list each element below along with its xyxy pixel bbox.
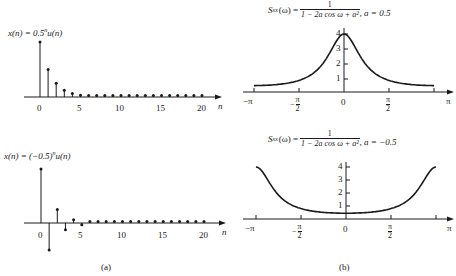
b-top-xtick-0: 0: [341, 98, 346, 107]
den: 2: [298, 231, 302, 240]
title-arg: (ω) =: [279, 134, 298, 144]
b-top-ytick-3: 3: [336, 44, 341, 53]
b-bottom-xtick-pi: π: [447, 224, 452, 233]
b-top-xtick-neg-pi-half: − π 2: [290, 96, 300, 113]
num: π: [388, 223, 392, 231]
num: π: [386, 96, 390, 104]
b-top-ytick-4: 4: [336, 29, 341, 38]
numerator: 1: [328, 130, 332, 138]
panel-b-bottom-title: Sxx(ω) = 1 1 − 2a cos ω + a² , a = −0.5: [268, 130, 397, 148]
den: 2: [388, 231, 392, 240]
b-top-ytick-2: 2: [336, 59, 341, 68]
b-top-xtick-pi-half: π 2: [386, 96, 390, 113]
b-top-xtick-pi: π: [446, 97, 451, 106]
minus: −: [290, 100, 295, 109]
minus: −: [292, 227, 297, 236]
fraction: 1 1 − 2a cos ω + a²: [300, 130, 360, 148]
num: π: [298, 223, 302, 231]
b-bottom-xtick-0: 0: [343, 225, 348, 234]
title-sub: xx: [273, 136, 278, 142]
denominator: 1 − 2a cos ω + a²: [300, 138, 360, 148]
x-axis-arrow-icon: [447, 217, 454, 222]
b-bottom-xtick-neg-pi: −π: [245, 224, 255, 233]
den: 2: [296, 104, 300, 113]
num: π: [296, 96, 300, 104]
caption-b: (b): [339, 263, 350, 272]
b-bottom-ytick-3: 3: [338, 175, 343, 184]
b-bottom-xtick-neg-pi-half: − π 2: [292, 223, 302, 240]
b-bottom-ytick-2: 2: [338, 188, 343, 197]
title-param: , a = −0.5: [360, 137, 397, 147]
b-top-ytick-1: 1: [336, 74, 341, 83]
den: 2: [386, 104, 390, 113]
b-bottom-xtick-pi-half: π 2: [388, 223, 392, 240]
y-ticks: [346, 167, 350, 206]
b-top-xtick-neg-pi: −π: [243, 97, 253, 106]
b-bottom-ytick-1: 1: [338, 201, 343, 210]
b-bottom-ytick-4: 4: [338, 162, 343, 171]
